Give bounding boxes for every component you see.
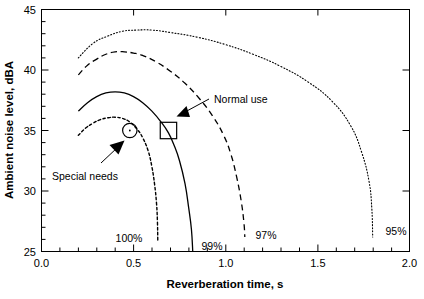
curve-label-95: 95%: [385, 225, 406, 237]
y-tick-label-35: 35: [24, 125, 36, 137]
y-axis-title: Ambient noise level, dBA: [3, 61, 15, 199]
annotation-label-normal-use: Normal use: [214, 93, 268, 105]
circle-marker-center-dot: [129, 130, 131, 132]
y-tick-label-25: 25: [24, 246, 36, 258]
x-axis-title: Reverberation time, s: [167, 278, 284, 290]
y-tick-label-30: 30: [24, 185, 36, 197]
y-tick-label-45: 45: [24, 4, 36, 16]
chart-figure: 45 40 35 30 25 0.0 0.5 1.0 1.5 2.0 Rever…: [0, 0, 424, 299]
y-tick-label-40: 40: [24, 64, 36, 76]
x-tick-label-4: 2.0: [402, 257, 417, 269]
x-tick-label-2: 1.0: [218, 257, 233, 269]
curve-label-100: 100%: [116, 232, 143, 244]
curve-label-97: 97%: [255, 229, 276, 241]
x-tick-label-0: 0.0: [34, 257, 49, 269]
x-tick-label-3: 1.5: [310, 257, 325, 269]
curve-label-99: 99%: [201, 240, 222, 252]
x-tick-label-1: 0.5: [126, 257, 141, 269]
annotation-label-special-needs: Special needs: [52, 170, 118, 182]
reverberation-noise-chart: 45 40 35 30 25 0.0 0.5 1.0 1.5 2.0 Rever…: [0, 0, 424, 299]
